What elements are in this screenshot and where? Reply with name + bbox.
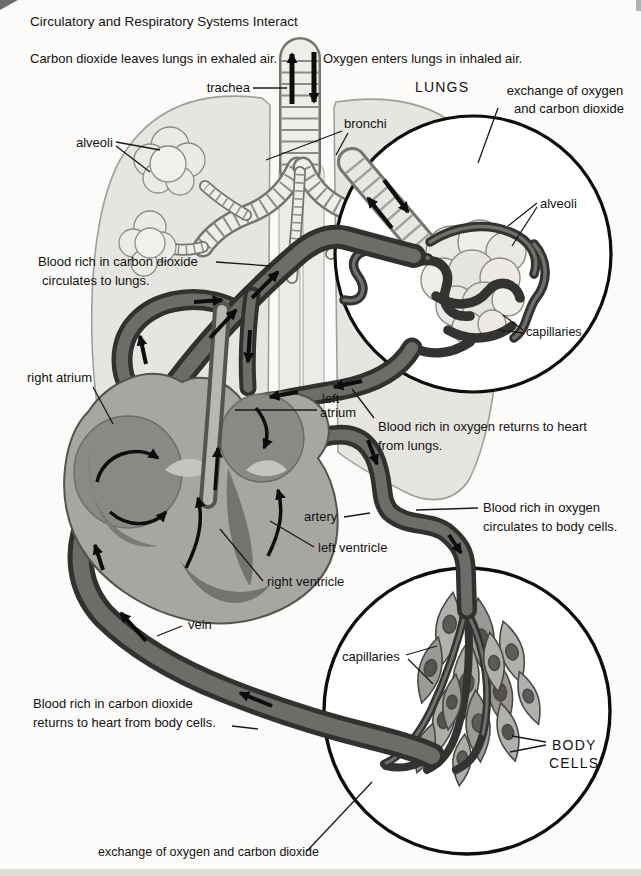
label-alveoli-inset: alveoli (540, 196, 577, 211)
label-exchange-top-1: exchange of oxygen (507, 83, 623, 98)
label-o2-to-body-1: Blood rich in oxygen (483, 500, 600, 515)
label-right-atrium: right atrium (27, 370, 92, 385)
label-bronchi: bronchi (344, 116, 387, 131)
label-trachea: trachea (207, 80, 251, 95)
label-o2-to-body-2: circulates to body cells. (483, 519, 617, 534)
label-left-ventricle: left ventricle (318, 540, 387, 555)
leader-artery (344, 513, 370, 517)
label-right-ventricle: right ventricle (267, 574, 344, 589)
label-inhaled: Oxygen enters lungs in inhaled air. (323, 51, 522, 66)
label-o2-to-heart-2: from lungs. (378, 438, 442, 453)
leader-o2-to-body (416, 508, 478, 510)
label-co2-to-lungs-2: circulates to lungs. (42, 273, 150, 288)
diagram-page: Circulatory and Respiratory Systems Inte… (0, 0, 641, 876)
label-lungs: LUNGS (415, 79, 469, 95)
label-exchange-bottom: exchange of oxygen and carbon dioxide (98, 845, 319, 859)
label-exhaled: Carbon dioxide leaves lungs in exhaled a… (30, 51, 277, 66)
label-co2-to-lungs-1: Blood rich in carbon dioxide (38, 254, 198, 269)
label-left-atrium-2: atrium (320, 405, 356, 420)
label-vein: vein (188, 617, 212, 632)
label-body-cells-1: BODY (552, 737, 596, 753)
leader-exchange-bottom (307, 782, 372, 851)
page-title: Circulatory and Respiratory Systems Inte… (30, 14, 298, 29)
circulatory-respiratory-diagram: Circulatory and Respiratory Systems Inte… (0, 0, 641, 876)
leader-co2-to-heart (232, 726, 258, 729)
label-alveoli-lung: alveoli (76, 135, 113, 150)
label-co2-to-heart-1: Blood rich in carbon dioxide (33, 696, 193, 711)
label-co2-to-heart-2: returns to heart from body cells. (33, 715, 216, 730)
flow-arrow (194, 300, 222, 302)
right-atrium-chamber (74, 416, 182, 528)
label-exchange-top-2: and carbon dioxide (514, 101, 624, 116)
label-left-atrium-1: left (322, 391, 340, 406)
label-o2-to-heart-1: Blood rich in oxygen returns to heart (378, 419, 587, 434)
label-capillaries-body: capillaries (342, 649, 400, 664)
label-artery: artery (304, 509, 338, 524)
leader-vein (157, 626, 182, 636)
label-capillaries-inset: capillaries (526, 325, 582, 339)
label-body-cells-2: CELLS (549, 755, 599, 771)
flow-arrow (248, 330, 250, 362)
